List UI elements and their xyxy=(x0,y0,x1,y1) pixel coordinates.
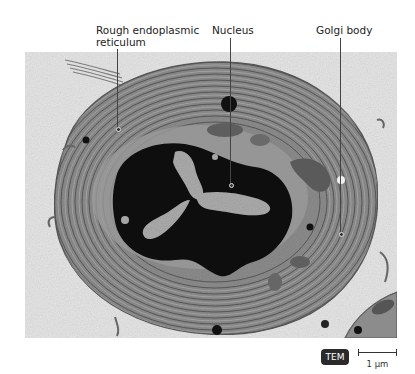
label-rough-er-line1: Rough endoplasmic xyxy=(96,24,199,36)
label-rough-er: Rough endoplasmic reticulum xyxy=(96,24,199,48)
scale-bar-left-tick xyxy=(358,349,359,356)
leader-line-golgi-body xyxy=(340,38,341,233)
leader-dot-rough-er xyxy=(116,127,121,132)
scale-bar xyxy=(358,352,397,353)
leader-dot-nucleus xyxy=(229,183,234,188)
tem-micrograph xyxy=(25,52,397,338)
label-nucleus-text: Nucleus xyxy=(212,24,254,36)
label-nucleus: Nucleus xyxy=(212,24,254,36)
label-rough-er-line2: reticulum xyxy=(96,36,199,48)
leader-line-nucleus xyxy=(230,38,231,184)
scale-bar-label: 1 µm xyxy=(358,359,397,369)
tem-badge: TEM xyxy=(321,349,349,365)
label-golgi-body-text: Golgi body xyxy=(316,24,372,36)
leader-line-rough-er xyxy=(117,49,118,128)
label-golgi-body: Golgi body xyxy=(316,24,372,36)
scale-bar-right-tick xyxy=(396,349,397,356)
leader-dot-golgi-body xyxy=(339,232,344,237)
